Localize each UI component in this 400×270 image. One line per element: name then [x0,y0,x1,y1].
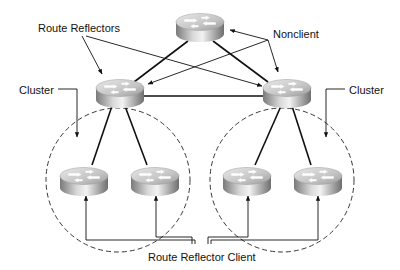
router-icon-client-1 [60,168,108,197]
router-icon-client-3 [223,168,271,197]
route-reflectors-callout [82,36,262,86]
router-icon-client-2 [131,168,179,197]
router-icon-client-4 [294,168,342,197]
client-callouts [86,196,318,244]
label-cluster-right: Cluster [349,84,384,96]
router-icon-nonclient [176,14,224,43]
label-route-reflector-client: Route Reflector Client [148,251,256,263]
label-cluster-left: Cluster [19,84,54,96]
router-icon-rr-right [263,80,311,109]
label-nonclient: Nonclient [273,28,319,40]
topology-svg [0,0,400,270]
label-route-reflectors: Route Reflectors [38,22,120,34]
diagram-canvas: Route Reflectors Nonclient Cluster Clust… [0,0,400,270]
router-icon-rr-left [96,80,144,109]
